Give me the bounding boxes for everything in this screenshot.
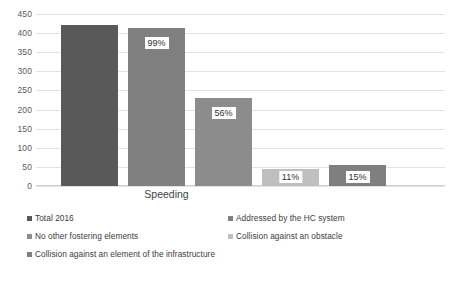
x-axis-category-label-text: Speeding: [144, 188, 188, 200]
bars-layer: 99%56%11%15%: [36, 14, 445, 186]
bar: 99%: [128, 28, 185, 186]
y-axis-tick-label: 250: [0, 86, 32, 95]
x-axis-category-label: Speeding: [36, 188, 445, 200]
legend-item[interactable]: Addressed by the HC system: [228, 214, 345, 222]
y-axis-tick-label: 450: [0, 10, 32, 19]
y-axis-tick-label: 0: [0, 182, 32, 191]
legend-item[interactable]: Collision against an element of the infr…: [27, 250, 215, 258]
legend-item-label: No other fostering elements: [35, 232, 138, 240]
bar: 56%: [195, 98, 252, 186]
bar-data-label: 11%: [279, 171, 302, 183]
y-axis-tick-label: 300: [0, 67, 32, 76]
bar-data-label: 56%: [211, 107, 235, 119]
legend-item-label: Total 2016: [35, 214, 74, 222]
bar-chart: 450400350300250200150100500 99%56%11%15%…: [0, 0, 452, 281]
chart-legend: Total 2016Addressed by the HC systemNo o…: [0, 210, 452, 278]
legend-swatch-icon: [228, 216, 233, 221]
bar: 11%: [262, 169, 319, 186]
bar: 15%: [329, 165, 386, 186]
legend-item[interactable]: No other fostering elements: [27, 232, 138, 240]
legend-swatch-icon: [27, 216, 32, 221]
y-axis-tick-label: 400: [0, 29, 32, 38]
legend-item[interactable]: Collision against an obstacle: [228, 232, 343, 240]
gridline: [36, 186, 445, 187]
legend-item[interactable]: Total 2016: [27, 214, 74, 222]
legend-swatch-icon: [228, 234, 233, 239]
legend-item-label: Collision against an obstacle: [236, 232, 343, 240]
bar-data-label: 15%: [345, 171, 369, 183]
bar-data-label: 99%: [144, 37, 168, 49]
plot-region: 450400350300250200150100500 99%56%11%15%…: [0, 0, 452, 205]
legend-item-label: Addressed by the HC system: [236, 214, 345, 222]
y-axis-tick-label: 100: [0, 144, 32, 153]
legend-swatch-icon: [27, 234, 32, 239]
y-axis: 450400350300250200150100500: [0, 14, 32, 186]
y-axis-tick-label: 150: [0, 124, 32, 133]
legend-item-label: Collision against an element of the infr…: [35, 250, 215, 258]
y-axis-tick-label: 350: [0, 48, 32, 57]
bar: [61, 25, 118, 186]
y-axis-tick-label: 50: [0, 163, 32, 172]
y-axis-tick-label: 200: [0, 105, 32, 114]
legend-swatch-icon: [27, 252, 32, 257]
